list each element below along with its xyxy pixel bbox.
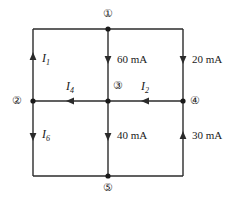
- branch-label-right-upper: 20 mA: [192, 54, 222, 65]
- branch-subscript-I4: 4: [70, 86, 74, 95]
- arrow-right-upper-branch-down: [180, 56, 187, 64]
- branch-label-middle-left: I4: [66, 80, 74, 95]
- arrow-center-lower-branch-down: [105, 133, 112, 141]
- branch-subscript-I6: 6: [46, 134, 50, 143]
- branch-subscript-I1: 1: [46, 58, 50, 67]
- arrow-left-lower-branch-down: [30, 133, 37, 141]
- branch-label-middle-right: I2: [141, 80, 149, 95]
- branch-label-right-lower: 30 mA: [192, 130, 222, 141]
- node-label-1: ①: [103, 8, 113, 19]
- branch-label-center-lower: 40 mA: [117, 130, 147, 141]
- node-label-5: ⑤: [103, 182, 113, 193]
- node-label-2: ②: [12, 95, 22, 106]
- arrow-right-lower-branch-up: [180, 131, 187, 139]
- arrow-middle-right-branch-left: [141, 98, 149, 105]
- junction-dot-node-1: [105, 26, 110, 31]
- junction-dot-node-2: [30, 98, 35, 103]
- node-label-3: ③: [113, 80, 123, 91]
- circuit-diagram: ① ② ③ ④ ⑤ I1 60 mA 20 mA I4 I2 I6 40 mA …: [0, 0, 231, 202]
- arrow-center-upper-branch-down: [105, 56, 112, 64]
- branch-label-center-upper: 60 mA: [117, 54, 147, 65]
- junction-dot-node-3: [105, 98, 110, 103]
- node-label-4: ④: [190, 95, 200, 106]
- branch-label-left-upper: I1: [42, 52, 50, 67]
- branch-label-left-lower: I6: [42, 128, 50, 143]
- junction-dot-node-5: [105, 173, 110, 178]
- arrow-middle-left-branch-left: [66, 98, 74, 105]
- junction-dot-node-4: [180, 98, 185, 103]
- branch-subscript-I2: 2: [145, 86, 149, 95]
- arrow-left-upper-branch-up: [30, 52, 37, 60]
